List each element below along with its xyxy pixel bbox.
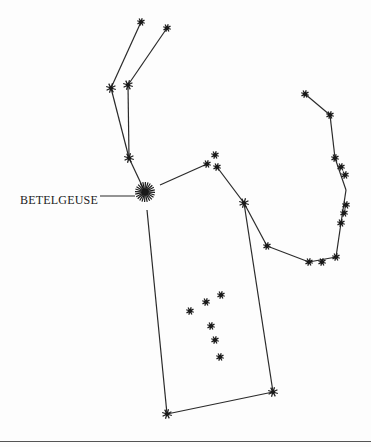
constellation-line: [217, 167, 244, 203]
star-icon: [203, 160, 211, 168]
constellation-line: [111, 88, 129, 158]
star-icon: [211, 151, 219, 159]
constellation-line: [167, 392, 273, 414]
constellation-line: [160, 164, 207, 185]
star-icon: [163, 24, 171, 32]
star-icon: [137, 18, 145, 26]
star-icon: [216, 353, 224, 361]
constellation-line: [305, 94, 330, 115]
star-icon: [211, 336, 219, 344]
star-icon: [263, 242, 271, 250]
stars: [106, 18, 350, 419]
star-icon: [186, 307, 194, 315]
bottom-rule: [0, 441, 371, 442]
constellation-line: [330, 115, 335, 158]
orion-diagram: [0, 0, 371, 447]
star-icon: [135, 182, 155, 202]
constellation-line: [336, 223, 341, 257]
star-icon: [340, 209, 348, 217]
constellation-line: [267, 246, 309, 262]
constellation-line: [111, 22, 141, 88]
star-icon: [207, 322, 215, 330]
betelgeuse-label: BETELGEUSE: [20, 193, 98, 208]
constellation-line: [128, 85, 129, 158]
constellation-line: [147, 210, 167, 414]
star-icon: [106, 83, 116, 93]
star-icon: [202, 298, 210, 306]
star-icon: [217, 291, 225, 299]
